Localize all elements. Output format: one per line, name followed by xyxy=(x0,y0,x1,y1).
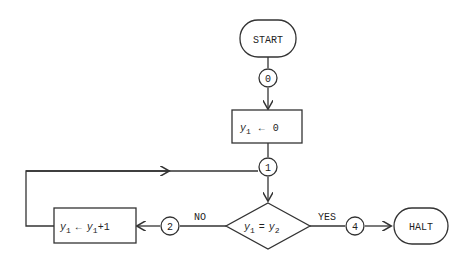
start-label: START xyxy=(253,35,283,46)
init-process-box: y1←0 xyxy=(232,110,302,143)
flowchart-canvas: START 0 y1←0 1 y1=y2 NO 2 y1←y1+1 Y xyxy=(0,0,471,262)
decision-diamond: y1=y2 xyxy=(226,203,310,249)
connector-0: 0 xyxy=(259,69,277,87)
connector-2: 2 xyxy=(161,217,179,235)
connector-1-label: 1 xyxy=(265,163,271,174)
yes-branch-label: YES xyxy=(318,212,336,223)
start-terminal: START xyxy=(240,20,296,57)
connector-1: 1 xyxy=(259,158,277,176)
halt-label: HALT xyxy=(409,222,433,233)
increment-process-box: y1←y1+1 xyxy=(54,208,136,243)
connector-4-label: 4 xyxy=(352,222,358,233)
edges xyxy=(26,57,390,226)
halt-terminal: HALT xyxy=(394,208,448,244)
connector-2-label: 2 xyxy=(167,222,173,233)
connector-4: 4 xyxy=(346,217,364,235)
connector-0-label: 0 xyxy=(265,74,271,85)
no-branch-label: NO xyxy=(194,212,206,223)
